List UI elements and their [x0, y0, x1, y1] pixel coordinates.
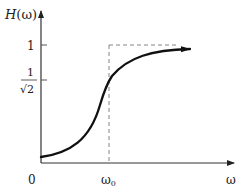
response-curve — [41, 49, 190, 157]
svg-text:1: 1 — [27, 66, 34, 79]
svg-text:√2: √2 — [20, 83, 34, 96]
frequency-response-diagram: H(ω) 1 1 √2 0 ω0 ω — [0, 0, 246, 190]
origin-label: 0 — [28, 173, 36, 187]
tick-label-one: 1 — [27, 39, 35, 53]
x-axis-label: ω — [226, 173, 236, 187]
y-axis-label: H(ω) — [4, 7, 37, 22]
omega0-label: ω0 — [101, 173, 116, 188]
tick-label-inv-sqrt2: 1 √2 — [20, 66, 37, 96]
